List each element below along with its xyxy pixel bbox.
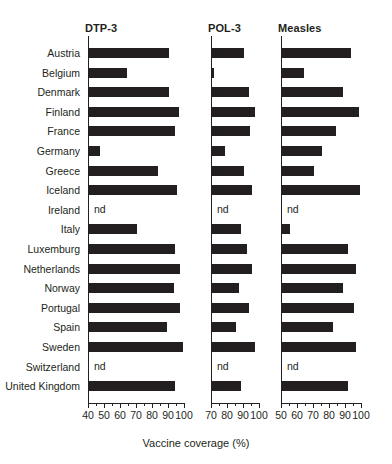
axis-tick-label: 80	[221, 410, 233, 421]
axis-tick-label: 50	[275, 410, 287, 421]
panel-dtp3: ndnd	[88, 48, 184, 397]
axis-tick-minor	[160, 403, 161, 406]
country-label: Austria	[0, 48, 84, 59]
bar	[89, 87, 169, 97]
panel-pol3: ndnd	[211, 48, 259, 397]
axis-tick-label: 60	[291, 410, 303, 421]
bar	[282, 283, 343, 293]
bar	[89, 342, 183, 352]
axis-tick-minor	[337, 403, 338, 406]
country-label: Luxemburg	[0, 244, 84, 255]
axis-tick-major	[211, 403, 212, 408]
axis-tick-minor	[305, 403, 306, 406]
country-label: Switzerland	[0, 362, 84, 373]
bar	[282, 87, 343, 97]
country-label: Greece	[0, 166, 84, 177]
axis-tick-label: 80	[323, 410, 335, 421]
axis-tick-major	[329, 403, 330, 408]
axis-tick-major	[227, 403, 228, 408]
no-data-marker: nd	[287, 204, 299, 214]
country-label: Sweden	[0, 342, 84, 353]
bar	[212, 244, 247, 254]
country-label: Norway	[0, 283, 84, 294]
country-label: France	[0, 126, 84, 137]
axis-tick-major	[104, 403, 105, 408]
axis-tick-major	[361, 403, 362, 408]
axis-tick-label: 60	[114, 410, 126, 421]
country-label: Spain	[0, 322, 84, 333]
axis-tick-label: 70	[307, 410, 319, 421]
axis-tick-minor	[176, 403, 177, 406]
axis-tick-minor	[144, 403, 145, 406]
country-label: Belgium	[0, 68, 84, 79]
axis-tick-major	[259, 403, 260, 408]
bar	[212, 48, 244, 58]
bar	[89, 224, 137, 234]
bar	[282, 68, 304, 78]
country-label: Finland	[0, 107, 84, 118]
bar	[212, 264, 252, 274]
axis-tick-label: 90	[162, 410, 174, 421]
bar	[212, 68, 214, 78]
axis-tick-minor	[353, 403, 354, 406]
panel-measles: ndnd	[281, 48, 361, 397]
bar	[282, 264, 356, 274]
country-label: Iceland	[0, 185, 84, 196]
country-label: Germany	[0, 146, 84, 157]
bar	[89, 322, 167, 332]
bar	[89, 166, 158, 176]
x-axis-caption: Vaccine coverage (%)	[0, 437, 392, 449]
bar	[89, 283, 174, 293]
bar	[212, 224, 241, 234]
bar	[212, 166, 244, 176]
axis-tick-minor	[112, 403, 113, 406]
bar	[212, 322, 236, 332]
no-data-marker: nd	[94, 204, 106, 214]
axis-tick-major	[168, 403, 169, 408]
axis-tick-label: 70	[205, 410, 217, 421]
bar	[282, 342, 356, 352]
axis-tick-label: 80	[146, 410, 158, 421]
country-label: Ireland	[0, 205, 84, 216]
axis-tick-major	[345, 403, 346, 408]
bar	[282, 166, 314, 176]
country-label: Netherlands	[0, 264, 84, 275]
axis-tick-label: 90	[339, 410, 351, 421]
axis-tick-major	[136, 403, 137, 408]
panel-title-measles: Measles	[278, 22, 322, 34]
axis-tick-label: 40	[82, 410, 94, 421]
bar	[212, 342, 255, 352]
panel-title-dtp-3: DTP-3	[85, 22, 117, 34]
bar	[212, 87, 249, 97]
bar	[212, 126, 250, 136]
axis-tick-minor	[321, 403, 322, 406]
axis-tick-minor	[289, 403, 290, 406]
bar	[212, 185, 252, 195]
bar	[282, 244, 348, 254]
axis-tick-major	[313, 403, 314, 408]
country-label: Denmark	[0, 87, 84, 98]
bar	[212, 381, 241, 391]
axis-tick-major	[243, 403, 244, 408]
bar	[89, 264, 180, 274]
bar	[212, 107, 255, 117]
axis-tick-label: 100	[250, 410, 268, 421]
bar	[282, 126, 336, 136]
bar	[282, 303, 354, 313]
bar	[212, 303, 249, 313]
axis-tick-major	[297, 403, 298, 408]
no-data-marker: nd	[287, 361, 299, 371]
country-label: Portugal	[0, 303, 84, 314]
axis-tick-label: 70	[130, 410, 142, 421]
country-label: Italy	[0, 224, 84, 235]
no-data-marker: nd	[94, 361, 106, 371]
bar	[89, 107, 179, 117]
axis-tick-major	[120, 403, 121, 408]
bar	[89, 244, 175, 254]
axis-tick-label: 100	[175, 410, 193, 421]
axis-tick-major	[88, 403, 89, 408]
country-label: United Kingdom	[0, 381, 84, 392]
axis-tick-label: 50	[98, 410, 110, 421]
bar	[89, 48, 169, 58]
bar	[282, 322, 333, 332]
